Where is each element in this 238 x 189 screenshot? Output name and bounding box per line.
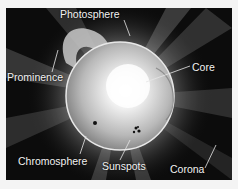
label-prominence: Prominence bbox=[7, 72, 63, 83]
label-photosphere: Photosphere bbox=[60, 9, 120, 20]
core bbox=[106, 64, 150, 108]
sun-diagram: Photosphere Prominence Core Chromosphere… bbox=[6, 8, 232, 180]
label-corona: Corona bbox=[170, 164, 204, 175]
label-sunspots: Sunspots bbox=[102, 161, 146, 172]
label-core: Core bbox=[192, 62, 215, 73]
label-chromosphere: Chromosphere bbox=[18, 156, 87, 167]
